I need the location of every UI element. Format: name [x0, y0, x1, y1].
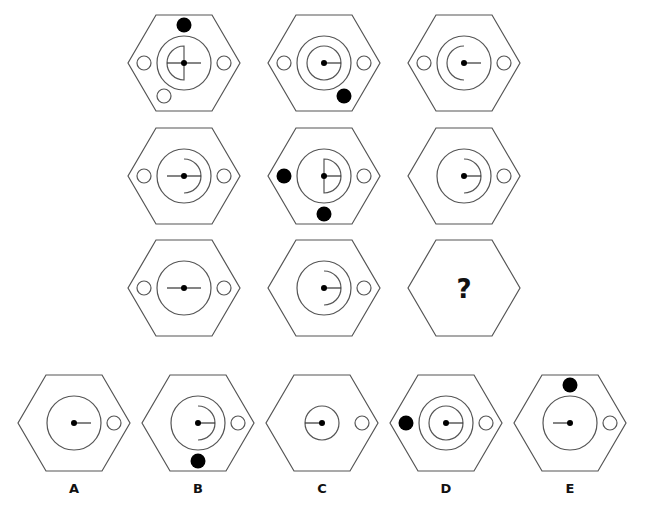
question-mark: ? [456, 274, 471, 304]
grid-cell-r3-c3: ? [408, 240, 520, 336]
black-dot-bottom [191, 454, 206, 469]
option-label-e[interactable]: E [550, 481, 590, 496]
center-dot [319, 420, 325, 426]
center-dot [195, 420, 201, 426]
puzzle-canvas: ? [0, 0, 656, 518]
center-dot [321, 173, 327, 179]
center-dot [461, 60, 467, 66]
option-label-c[interactable]: C [302, 481, 342, 496]
option-label-a[interactable]: A [54, 481, 94, 496]
option-e[interactable] [514, 375, 626, 471]
grid-cell-r1-c2 [268, 15, 380, 111]
center-dot [321, 285, 327, 291]
center-dot [321, 60, 327, 66]
black-dot-bottom [317, 207, 332, 222]
center-dot [181, 285, 187, 291]
option-b[interactable] [142, 375, 254, 471]
grid-cell-r2-c3 [408, 128, 520, 224]
option-d[interactable] [390, 375, 502, 471]
black-dot-left [277, 169, 292, 184]
grid-cell-r3-c2 [268, 240, 380, 336]
grid-cell-r2-c2 [268, 128, 380, 224]
center-dot [567, 420, 573, 426]
center-dot [71, 420, 77, 426]
center-dot [461, 173, 467, 179]
option-label-d[interactable]: D [426, 481, 466, 496]
grid-cell-r1-c3 [408, 15, 520, 111]
grid-cell-r1-c1 [128, 15, 240, 111]
option-c[interactable] [266, 375, 378, 471]
black-dot-top [563, 378, 578, 393]
black-dot-bottom-right [337, 89, 352, 104]
center-dot [443, 420, 449, 426]
grid-cell-r3-c1 [128, 240, 240, 336]
black-dot-left [399, 416, 414, 431]
option-label-b[interactable]: B [178, 481, 218, 496]
black-dot-top [177, 18, 192, 33]
grid-cell-r2-c1 [128, 128, 240, 224]
center-dot [181, 60, 187, 66]
option-a[interactable] [18, 375, 130, 471]
center-dot [181, 173, 187, 179]
